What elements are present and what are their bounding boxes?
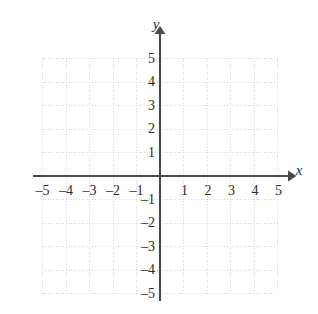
y-tick-label: –2 <box>141 216 155 230</box>
y-axis-label: y <box>153 17 160 32</box>
x-tick-label: 3 <box>228 184 235 198</box>
x-axis-label: x <box>296 163 303 178</box>
axis-lines <box>0 0 318 314</box>
x-tick-label: –5 <box>36 184 50 198</box>
y-tick-label: –5 <box>141 287 155 301</box>
y-tick-label: –1 <box>141 193 155 207</box>
x-tick-label: 2 <box>205 184 212 198</box>
y-tick-label: 3 <box>148 99 155 113</box>
x-tick-label: –4 <box>59 184 73 198</box>
x-tick-label: 5 <box>275 184 282 198</box>
x-tick-label: –3 <box>83 184 97 198</box>
y-tick-label: 4 <box>148 75 155 89</box>
y-tick-label: 2 <box>148 122 155 136</box>
x-tick-label: –2 <box>106 184 120 198</box>
y-tick-label: –4 <box>141 263 155 277</box>
y-tick-label: 5 <box>148 52 155 66</box>
coordinate-plane: –5–4–3–2–11234554321–1–2–3–4–5 x y <box>0 0 318 314</box>
x-tick-label: 4 <box>252 184 259 198</box>
y-tick-label: –3 <box>141 240 155 254</box>
x-tick-label: 1 <box>181 184 188 198</box>
y-tick-label: 1 <box>148 146 155 160</box>
